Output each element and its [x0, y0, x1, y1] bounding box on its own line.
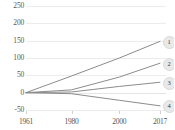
y-tick-label--50: -50: [0, 106, 24, 114]
series-line-2: [26, 63, 160, 92]
x-tick-label-1961: 1961: [6, 117, 46, 126]
x-tick-mark-1980: [72, 111, 73, 114]
x-tick-mark-2017: [160, 111, 161, 114]
y-tick-label-250: 250: [0, 2, 24, 10]
gridline-100: [26, 58, 166, 59]
line-chart: 250200150100500-50 1961198020002017 1234: [0, 0, 174, 130]
gridline-150: [26, 41, 166, 42]
gridline--50: [26, 110, 166, 111]
y-tick-label-50: 50: [0, 71, 24, 79]
series-badge-3[interactable]: 3: [163, 77, 175, 90]
x-tick-label-1980: 1980: [52, 117, 92, 126]
series-line-3: [26, 82, 160, 92]
series-badge-1[interactable]: 1: [163, 36, 175, 49]
y-tick-label-0: 0: [0, 89, 24, 97]
y-tick-label-150: 150: [0, 37, 24, 45]
series-line-1: [26, 41, 160, 92]
y-tick-label-100: 100: [0, 54, 24, 62]
x-tick-label-2000: 2000: [99, 117, 139, 126]
x-tick-mark-2000: [119, 111, 120, 114]
series-badge-2[interactable]: 2: [163, 58, 175, 71]
series-line-4: [26, 93, 160, 106]
gridline-50: [26, 75, 166, 76]
series-badge-4[interactable]: 4: [163, 100, 175, 113]
x-tick-mark-1961: [26, 111, 27, 114]
gridline-250: [26, 6, 166, 7]
gridline-0: [26, 93, 166, 94]
gridline-200: [26, 23, 166, 24]
y-tick-label-200: 200: [0, 19, 24, 27]
x-tick-label-2017: 2017: [140, 117, 174, 126]
